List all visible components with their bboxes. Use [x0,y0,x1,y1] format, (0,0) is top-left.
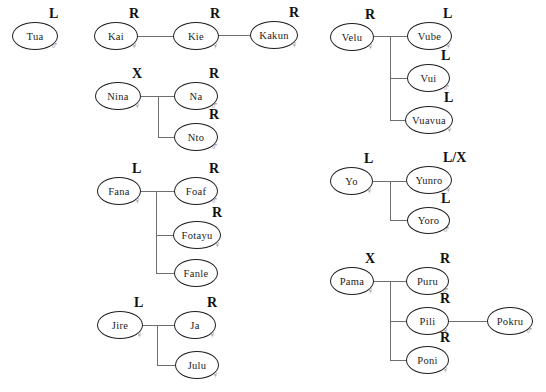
male-icon: ♂ [50,40,58,51]
kin-label: X [365,252,375,266]
person-name: Ja [190,320,199,331]
person-kai: Kai R ♀ [94,22,138,50]
person-name: Fotayu [182,230,213,241]
kin-label: R [212,206,222,220]
link-line-kie-kakun [219,35,250,36]
kin-label: X [132,67,142,81]
person-name: Vui [420,73,436,84]
person-name: Yo [345,176,357,187]
person-yo: Yo L ♀ [330,167,373,195]
person-jire: Jire L ♀ [97,311,143,339]
child-stub-fanle [156,273,174,274]
kin-label: R [440,292,450,306]
kin-label: L/X [443,151,466,165]
descent-trunk-fana [156,191,157,273]
female-icon: ♀ [365,185,373,196]
person-pokru: Pokru ♂ [487,307,533,335]
kin-label: L [49,7,58,21]
person-name: Julu [188,360,207,371]
kin-label: R [207,296,217,310]
child-stub-nto [158,137,174,138]
person-kakun: Kakun R ♀ [250,21,298,49]
female-icon: ♀ [290,39,298,50]
kinship-diagram: Tua L ♂ Kai R ♀ Kie R ♀ Kakun R ♀ Nina X… [0,0,546,392]
person-yoro: Yoro L ♂ [407,207,450,234]
person-name: Fana [108,186,130,197]
female-icon: ♀ [211,369,219,380]
person-yunro: Yunro L/X ♀ [406,166,452,194]
person-pama: Pama X ♀ [330,267,374,295]
person-name: Kai [108,31,124,42]
person-kie: Kie R ♀ [173,22,219,50]
person-fanle: Fanle [174,259,218,287]
kin-label: L [444,91,453,105]
person-name: Kie [188,31,204,42]
descent-trunk-jire [157,325,158,365]
person-name: Vuavua [412,115,446,126]
child-stub-vui [390,78,407,79]
person-name: Nina [107,91,129,102]
kin-label: L [364,152,373,166]
male-icon: ♂ [442,224,450,235]
person-name: Jire [112,320,128,331]
person-name: Pili [420,316,436,327]
female-icon: ♀ [211,40,219,51]
child-stub-pili [390,321,406,322]
male-icon: ♂ [210,141,218,152]
person-ja: Ja R ♀ [174,311,216,339]
kin-label: L [134,296,143,310]
person-name: Foaf [186,186,206,197]
person-name: Kakun [259,30,289,41]
person-vube: Vube L ♀ [407,22,452,50]
female-icon: ♀ [208,329,216,340]
child-stub-fotayu [156,235,173,236]
person-fotayu: Fotayu R ♀ [173,221,221,249]
kin-label: R [440,252,450,266]
kin-label: R [209,67,219,81]
descent-trunk-yo [390,181,391,221]
person-julu: Julu ♀ [175,351,219,379]
female-icon: ♀ [366,41,374,52]
female-icon: ♀ [130,40,138,51]
link-line-jire-ja [143,325,174,326]
female-icon: ♀ [445,124,453,135]
child-stub-poni [390,360,406,361]
person-name: Fanle [184,268,209,279]
person-name: Vube [418,31,441,42]
female-icon: ♀ [213,239,221,250]
child-stub-julu [157,365,175,366]
person-name: Pama [340,276,365,287]
person-vui: Vui L ♂ [407,64,450,92]
kin-label: R [440,331,450,345]
female-icon: ♀ [135,329,143,340]
person-tua: Tua L ♂ [12,22,58,50]
person-name: Poni [417,355,437,366]
kin-label: R [209,108,219,122]
person-name: Tua [27,31,44,42]
kin-label: L [441,192,450,206]
female-icon: ♀ [441,364,449,375]
person-name: Puru [417,276,438,287]
kin-label: L [132,162,141,176]
person-nto: Nto R ♂ [174,123,218,151]
person-vuavua: Vuavua L ♀ [405,106,453,134]
person-name: Yoro [418,215,440,226]
person-nina: Nina X ♀ [95,82,141,110]
kin-label: R [210,7,220,21]
link-line-pili-pokru [449,321,487,322]
child-stub-yoro [390,220,407,221]
person-name: Yunro [415,175,442,186]
descent-trunk-nina [158,96,159,137]
person-fana: Fana L ♀ [97,177,141,205]
person-velu: Velu R ♀ [330,23,374,51]
child-stub-vuavua [390,120,405,121]
person-name: Velu [342,32,362,43]
person-poni: Poni R ♀ [406,346,449,374]
person-name: Na [190,91,203,102]
kin-label: R [129,7,139,21]
person-na: Na R ♂ [174,82,218,110]
male-icon: ♂ [525,325,533,336]
person-name: Nto [188,132,205,143]
link-line-fana-foaf [141,191,174,192]
female-icon: ♀ [366,285,374,296]
